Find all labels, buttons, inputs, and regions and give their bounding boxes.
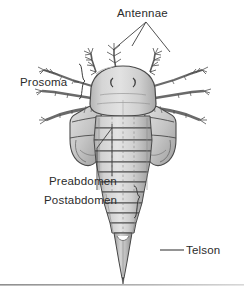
- eurypterid-diagram-figure: Antennae Prosoma Preabdomen Postabdomen …: [0, 0, 244, 303]
- label-postabdomen: Postabdomen: [44, 194, 117, 206]
- prosoma-carapace: [90, 66, 156, 116]
- label-preabdomen: Preabdomen: [49, 175, 117, 187]
- baseline-rule: [0, 284, 244, 286]
- antenna-right: [150, 48, 162, 75]
- antennae-leader-lines: [113, 22, 170, 52]
- eurypterid-illustration: [0, 0, 244, 303]
- label-telson: Telson: [186, 244, 220, 256]
- label-prosoma: Prosoma: [20, 76, 67, 88]
- telson: [114, 233, 132, 284]
- label-antennae: Antennae: [117, 7, 168, 19]
- antenna-left: [84, 48, 96, 75]
